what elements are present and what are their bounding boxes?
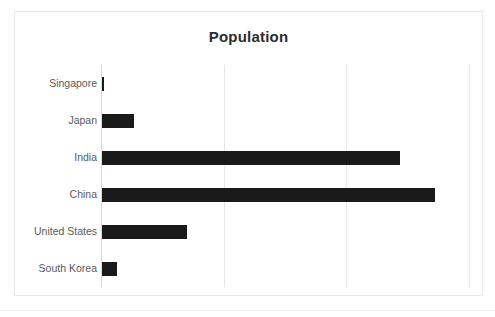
y-axis-label-south-korea: South Korea	[15, 250, 97, 287]
bar-row	[101, 102, 469, 139]
bar-row	[101, 139, 469, 176]
y-axis-label-china: China	[15, 176, 97, 213]
bar-china[interactable]	[102, 188, 435, 202]
bar-row	[101, 213, 469, 250]
bar-row	[101, 250, 469, 287]
bar-row	[101, 176, 469, 213]
bar-japan[interactable]	[102, 114, 134, 128]
y-axis-label-united-states: United States	[15, 213, 97, 250]
bar-row	[101, 65, 469, 102]
bar-united-states[interactable]	[102, 225, 187, 239]
gridline-1500	[469, 65, 470, 287]
chart-container[interactable]: Population SingaporeJapanIndiaChinaUnite…	[14, 11, 483, 296]
chart-title: Population	[15, 28, 482, 45]
plot-area	[101, 65, 469, 287]
y-axis-label-india: India	[15, 139, 97, 176]
bar-singapore[interactable]	[102, 77, 104, 91]
bar-south-korea[interactable]	[102, 262, 117, 276]
bar-india[interactable]	[102, 151, 400, 165]
y-axis-category-labels: SingaporeJapanIndiaChinaUnited StatesSou…	[15, 65, 97, 287]
y-axis-label-japan: Japan	[15, 102, 97, 139]
page-separator	[0, 310, 495, 311]
y-axis-label-singapore: Singapore	[15, 65, 97, 102]
